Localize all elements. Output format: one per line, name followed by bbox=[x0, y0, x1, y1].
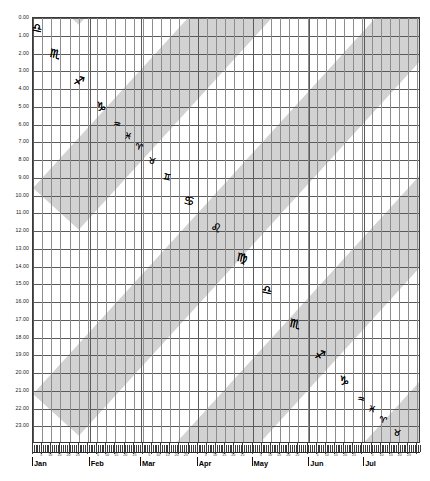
y-axis-tick-label: 13.00 bbox=[16, 245, 29, 251]
x-axis-tick bbox=[283, 445, 284, 452]
zodiac-symbol-pisces: ♓ bbox=[367, 404, 376, 414]
x-axis-tick bbox=[268, 445, 269, 452]
x-axis-tick bbox=[301, 445, 302, 452]
x-axis-day-label: 10 bbox=[213, 453, 217, 457]
x-axis-tick bbox=[244, 445, 245, 452]
x-axis-tick bbox=[153, 445, 154, 452]
x-axis-tick bbox=[65, 445, 66, 452]
x-axis-tick bbox=[162, 445, 163, 452]
x-axis-tick bbox=[149, 445, 150, 452]
x-axis-day-label: 15 bbox=[114, 453, 118, 457]
y-axis-tick-label: 9.00 bbox=[19, 174, 30, 180]
x-axis-day-label: 5 bbox=[260, 453, 262, 457]
x-axis-day-label: 15 bbox=[277, 453, 281, 457]
x-axis-tick bbox=[272, 445, 273, 452]
y-axis-tick-label: 10.00 bbox=[16, 192, 29, 198]
x-axis-tick bbox=[235, 445, 236, 452]
x-axis-tick bbox=[129, 445, 130, 452]
x-axis-day-label: 5 bbox=[97, 453, 99, 457]
x-axis-tick bbox=[184, 445, 185, 452]
y-axis-tick-label: 8.00 bbox=[19, 156, 30, 162]
x-axis-tick bbox=[336, 445, 337, 452]
x-axis-tick bbox=[332, 445, 333, 452]
x-axis-tick bbox=[167, 445, 168, 452]
zodiac-symbol-libra: ♎ bbox=[32, 21, 43, 35]
x-axis-day-label: 15 bbox=[222, 453, 226, 457]
x-axis-day-label: 10 bbox=[48, 453, 52, 457]
x-axis-day-label: 15 bbox=[334, 453, 338, 457]
x-axis-tick bbox=[34, 445, 35, 452]
x-axis-tick bbox=[158, 445, 159, 452]
x-axis-tick bbox=[402, 445, 403, 452]
zodiac-symbol-virgo: ♍ bbox=[235, 251, 248, 265]
x-axis-tick bbox=[171, 445, 172, 452]
zodiac-symbol-cancer: ♋ bbox=[182, 194, 195, 208]
x-axis-tick bbox=[74, 445, 75, 452]
x-axis-tick bbox=[396, 445, 397, 452]
x-axis-tick bbox=[347, 445, 348, 452]
x-axis-tick bbox=[358, 445, 359, 452]
x-axis-day-label: 10 bbox=[105, 453, 109, 457]
zodiac-symbol-sagittarius: ♐ bbox=[72, 74, 85, 88]
x-axis-tick bbox=[118, 445, 119, 452]
x-axis-tick bbox=[37, 445, 38, 452]
x-axis-tick bbox=[48, 445, 49, 452]
x-axis-tick bbox=[189, 445, 190, 452]
x-axis-tick bbox=[305, 445, 306, 452]
x-axis-tick bbox=[122, 445, 123, 452]
x-axis-tick bbox=[136, 445, 137, 452]
y-axis-tick-label: 7.00 bbox=[19, 138, 30, 144]
x-axis-tick bbox=[109, 445, 110, 452]
x-axis-tick bbox=[125, 445, 126, 452]
x-axis-tick bbox=[127, 445, 128, 452]
x-axis-tick bbox=[387, 445, 388, 452]
x-axis-tick bbox=[330, 445, 331, 452]
x-axis-tick bbox=[83, 445, 84, 452]
x-axis-tick bbox=[400, 445, 401, 452]
x-axis-tick bbox=[213, 445, 214, 452]
y-axis: 0.001.002.003.004.005.006.007.008.009.00… bbox=[0, 17, 32, 443]
zodiac-symbol-capricorn: ♑ bbox=[94, 100, 107, 114]
x-axis-day-label: 5 bbox=[205, 453, 207, 457]
x-axis-tick bbox=[120, 445, 121, 452]
x-axis-day-label: 20 bbox=[231, 453, 235, 457]
x-axis-month-label: Mar bbox=[142, 459, 155, 468]
x-axis-tick bbox=[54, 445, 55, 452]
x-axis-tick bbox=[292, 445, 293, 452]
y-axis-tick-label: 16.00 bbox=[16, 298, 29, 304]
x-axis-tick bbox=[89, 445, 90, 452]
x-axis-tick bbox=[312, 445, 313, 452]
x-axis-tick bbox=[211, 445, 212, 452]
x-axis-day-label: 25 bbox=[240, 453, 244, 457]
x-axis-tick bbox=[134, 445, 135, 452]
x-axis-tick bbox=[323, 445, 324, 452]
x-axis-tick bbox=[319, 445, 320, 452]
x-axis-tick bbox=[180, 445, 181, 452]
x-axis-tick bbox=[376, 445, 377, 452]
x-axis-tick bbox=[138, 445, 139, 452]
y-axis-tick-label: 23.00 bbox=[16, 422, 29, 428]
x-axis-tick bbox=[182, 445, 183, 452]
x-axis: Jan510152025Feb510152025Mar510152025Apr5… bbox=[32, 443, 420, 481]
x-axis-month-label: Apr bbox=[199, 459, 212, 468]
x-axis-tick bbox=[85, 445, 86, 452]
x-axis-tick bbox=[255, 445, 256, 452]
zodiac-symbol-sagittarius: ♐ bbox=[314, 348, 327, 362]
x-axis-day-label: 10 bbox=[268, 453, 272, 457]
x-axis-day-label: 20 bbox=[67, 453, 71, 457]
y-axis-tick-label: 19.00 bbox=[16, 351, 29, 357]
x-axis-day-label: 10 bbox=[156, 453, 160, 457]
x-axis-tick bbox=[277, 445, 278, 452]
x-axis-tick bbox=[363, 445, 364, 452]
y-axis-tick-label: 1.00 bbox=[19, 32, 30, 38]
x-axis-tick bbox=[142, 443, 143, 454]
x-axis-day-label: 20 bbox=[175, 453, 179, 457]
x-axis-tick bbox=[416, 443, 417, 454]
x-axis-tick bbox=[131, 445, 132, 452]
x-axis-tick bbox=[193, 445, 194, 452]
x-axis-tick bbox=[32, 443, 33, 454]
x-axis-tick bbox=[281, 445, 282, 452]
x-axis-tick bbox=[107, 445, 108, 452]
x-axis-tick bbox=[286, 445, 287, 452]
x-axis-day-label: 15 bbox=[57, 453, 61, 457]
